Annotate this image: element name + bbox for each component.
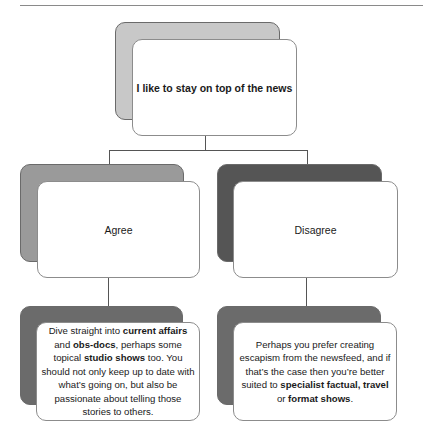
page-header-rule [20,5,423,6]
disagree-result-text: Perhaps you prefer creating escapism fro… [234,338,396,406]
disagree-node: Disagree [233,181,398,278]
connector-horizontal [109,150,308,151]
agree-result-text: Dive straight into current affairs and o… [37,324,199,419]
connector-to-disagree [307,150,308,164]
connector-root-down [205,136,206,150]
connector-agree-result [108,278,109,306]
connector-disagree-result [306,278,307,306]
root-node: I like to stay on top of the news [132,39,297,136]
root-node-label: I like to stay on top of the news [137,82,293,94]
agree-node-label: Agree [104,224,132,236]
connector-to-agree [109,150,110,164]
disagree-result: Perhaps you prefer creating escapism fro… [233,322,397,421]
disagree-node-label: Disagree [294,224,336,236]
agree-node: Agree [37,181,200,278]
agree-result: Dive straight into current affairs and o… [36,322,200,421]
